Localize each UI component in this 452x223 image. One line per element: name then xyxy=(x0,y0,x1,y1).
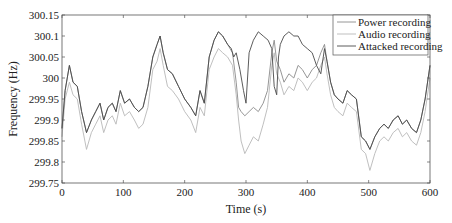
y-tick-label: 299.95 xyxy=(29,93,60,105)
y-axis-title: Frequency (Hz) xyxy=(6,61,20,137)
y-tick-label: 300 xyxy=(43,72,60,84)
y-tick-label: 299.85 xyxy=(29,135,60,147)
y-tick-label: 300.05 xyxy=(29,51,60,63)
legend-label-audio: Audio recording xyxy=(358,28,431,40)
x-tick-label: 0 xyxy=(59,186,65,198)
legend-label-power: Power recording xyxy=(358,16,432,28)
x-axis-title: Time (s) xyxy=(226,202,267,216)
legend-label-attacked: Attacked recording xyxy=(358,40,443,52)
y-tick-label: 299.75 xyxy=(29,177,60,189)
x-tick-label: 500 xyxy=(360,186,377,198)
series-line-audio-recording xyxy=(62,49,430,171)
x-tick-label: 300 xyxy=(238,186,255,198)
x-tick-label: 600 xyxy=(422,186,439,198)
y-tick-label: 299.9 xyxy=(34,114,59,126)
x-tick-label: 200 xyxy=(176,186,193,198)
x-tick-label: 100 xyxy=(115,186,132,198)
x-tick-label: 400 xyxy=(299,186,316,198)
y-tick-label: 299.8 xyxy=(34,156,59,168)
frequency-chart: 0100200300400500600 299.75299.8299.85299… xyxy=(0,0,452,223)
y-tick-label: 300.15 xyxy=(29,9,60,21)
y-tick-label: 300.1 xyxy=(34,30,59,42)
legend: Power recording Audio recording Attacked… xyxy=(333,15,443,55)
